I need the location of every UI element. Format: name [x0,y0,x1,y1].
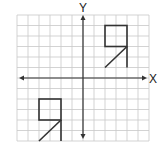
coordinate-plane: X Y [0,0,164,143]
y-axis-bottom-arrow-icon [81,134,86,139]
y-axis-top-arrow-icon [81,15,86,20]
y-axis-label: Y [79,1,87,15]
x-axis-label: X [149,72,157,86]
x-axis-left-arrow-icon [19,76,24,81]
x-axis-right-arrow-icon [142,76,147,81]
